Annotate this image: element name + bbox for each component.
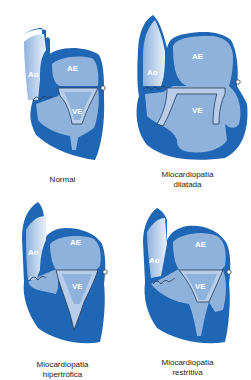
panel-normal: Ao AE VE Normal — [0, 0, 125, 190]
caption-restrictive: Miocardiopatia restritiva — [125, 358, 250, 378]
label-left-ventricle: VE — [195, 282, 206, 291]
heart-restrictive-illustration — [125, 190, 251, 380]
label-left-atrium: AE — [195, 240, 206, 249]
label-left-ventricle: VE — [192, 106, 203, 115]
caption-normal: Normal — [0, 175, 125, 185]
label-left-atrium: AE — [192, 52, 203, 61]
label-left-atrium: AE — [67, 64, 78, 73]
label-aorta: Ao — [147, 68, 158, 77]
heart-normal-illustration — [0, 0, 125, 190]
label-left-atrium: AE — [70, 238, 81, 247]
heart-hypertrophic-illustration — [0, 190, 125, 380]
label-aorta: Ao — [28, 248, 39, 257]
panel-dilated: Ao AE VE Miocardiopatia dilatada — [125, 0, 250, 190]
label-left-ventricle: VE — [72, 282, 83, 291]
label-aorta: Ao — [28, 70, 39, 79]
caption-hypertrophic: Miocardiopatia hipertrófica — [0, 360, 125, 380]
heart-dilated-illustration — [125, 0, 251, 190]
panel-restrictive: Ao AE VE Miocardiopatia restritiva — [125, 190, 250, 380]
label-aorta: Ao — [149, 256, 160, 265]
panel-hypertrophic: Ao AE VE Miocardiopatia hipertrófica — [0, 190, 125, 380]
caption-dilated: Miocardiopatia dilatada — [125, 170, 250, 190]
label-left-ventricle: VE — [72, 107, 83, 116]
